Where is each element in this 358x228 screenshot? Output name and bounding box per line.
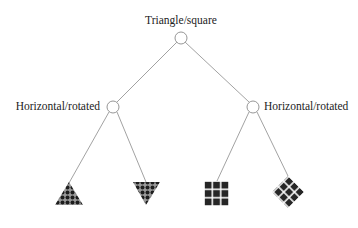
root-node: [175, 32, 187, 44]
root-label: Triangle/square: [145, 15, 217, 27]
edge-right-leaf2: [257, 112, 288, 176]
right-branch-node: [247, 101, 259, 113]
edge-root-right: [185, 42, 249, 102]
edge-root-left: [117, 42, 177, 102]
edge-left-leaf2: [117, 112, 146, 182]
leaf-triangle-up: [55, 182, 83, 205]
leaf-triangle-down: [133, 182, 160, 205]
right-branch-label: Horizontal/rotated: [264, 101, 348, 113]
tree-diagram: [0, 0, 358, 228]
edge-left-leaf1: [69, 112, 109, 183]
leaf-square: [204, 181, 229, 206]
left-branch-label: Horizontal/rotated: [16, 101, 100, 113]
edge-right-leaf1: [217, 112, 249, 181]
left-branch-node: [107, 101, 119, 113]
leaf-diamond: [272, 176, 304, 208]
